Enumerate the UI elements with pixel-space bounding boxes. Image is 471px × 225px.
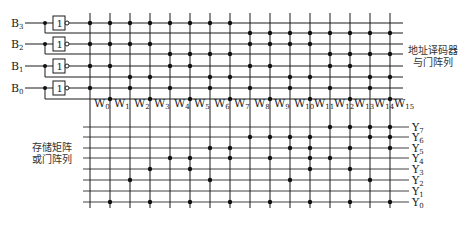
and-connection-dot [168, 64, 172, 68]
or-connection-dot [288, 146, 292, 150]
input-label-b1: B1 [11, 60, 24, 74]
and-connection-dot [368, 75, 372, 79]
decoder-caption: 地址译码器 与门阵列 [408, 45, 458, 69]
and-connection-dot [248, 31, 252, 35]
and-connection-dot [228, 52, 232, 56]
and-connection-dot [328, 86, 332, 90]
memory-caption: 存储矩阵 或门阵列 [32, 142, 72, 166]
or-connection-dot [308, 200, 312, 204]
and-connection-dot [148, 21, 152, 25]
or-connection-dot [168, 156, 172, 160]
and-connection-dot [368, 31, 372, 35]
decoder-caption-line2: 与门阵列 [408, 57, 458, 69]
and-connection-dot [328, 64, 332, 68]
and-connection-dot [228, 21, 232, 25]
or-connection-dot [288, 135, 292, 139]
or-connection-dot [308, 167, 312, 171]
or-connection-dot [288, 178, 292, 182]
junction-dot [43, 21, 47, 25]
or-connection-dot [128, 178, 132, 182]
and-connection-dot [368, 86, 372, 90]
or-connection-dot [108, 200, 112, 204]
or-connection-dot [388, 200, 392, 204]
junction-dot [43, 42, 47, 46]
and-connection-dot [128, 86, 132, 90]
and-connection-dot [288, 75, 292, 79]
and-connection-dot [88, 86, 92, 90]
memory-caption-line1: 存储矩阵 [32, 142, 72, 154]
or-connection-dot [228, 156, 232, 160]
and-connection-dot [88, 64, 92, 68]
and-connection-dot [348, 64, 352, 68]
and-connection-dot [108, 21, 112, 25]
input-label-b0: B0 [11, 82, 24, 96]
and-connection-dot [148, 42, 152, 46]
or-connection-dot [228, 200, 232, 204]
and-connection-dot [268, 42, 272, 46]
and-connection-dot [248, 64, 252, 68]
or-connection-dot [148, 200, 152, 204]
and-connection-dot [168, 21, 172, 25]
and-connection-dot [168, 52, 172, 56]
inverter-gates: 1111 [53, 16, 69, 95]
gate-symbol: 1 [57, 18, 63, 29]
and-connection-dot [108, 42, 112, 46]
and-connection-dot [308, 31, 312, 35]
gate-symbol: 1 [57, 39, 63, 50]
and-connection-dot [388, 97, 392, 101]
and-connection-dot [368, 52, 372, 56]
and-connection-dot [328, 31, 332, 35]
word-label-w15: W15 [394, 97, 414, 111]
inverter-bubble-icon [65, 86, 69, 90]
and-connection-dot [388, 75, 392, 79]
or-connection-dot [268, 156, 272, 160]
memory-caption-line2: 或门阵列 [32, 154, 72, 166]
inverter-bubble-icon [65, 64, 69, 68]
and-connection-dot [128, 42, 132, 46]
or-connection-dot [348, 125, 352, 129]
and-connection-dot [188, 64, 192, 68]
or-connection-dot [388, 146, 392, 150]
and-connection-dot [348, 97, 352, 101]
and-connection-dot [208, 75, 212, 79]
and-connection-dot [228, 97, 232, 101]
and-connection-dot [348, 31, 352, 35]
or-connection-dot [328, 156, 332, 160]
or-connection-dot [188, 200, 192, 204]
rom-decoder-diagram: 1111 B3B2B1B0Y7Y6Y5Y4Y3Y2Y1Y0W0W1W2W3W4W… [0, 0, 471, 225]
or-array-row-lines [83, 127, 409, 202]
signal-labels: B3B2B1B0Y7Y6Y5Y4Y3Y2Y1Y0W0W1W2W3W4W5W6W7… [11, 17, 424, 210]
and-connection-dot [188, 52, 192, 56]
input-label-b2: B2 [11, 38, 24, 52]
or-connection-dot [348, 167, 352, 171]
and-connection-dot [208, 52, 212, 56]
and-connection-dot [208, 21, 212, 25]
and-connection-dot [148, 75, 152, 79]
and-connection-dot [168, 86, 172, 90]
inverter-bubble-icon [65, 42, 69, 46]
or-connection-dot [208, 146, 212, 150]
and-connection-dot [268, 31, 272, 35]
junction-dot [43, 86, 47, 90]
or-connection-dot [248, 135, 252, 139]
or-connection-dot [348, 146, 352, 150]
junction-dot [43, 64, 47, 68]
and-connection-dot [228, 75, 232, 79]
and-connection-dot [88, 21, 92, 25]
or-connection-dot [388, 125, 392, 129]
decoder-caption-line1: 地址译码器 [408, 45, 458, 57]
and-connection-dot [288, 31, 292, 35]
and-connection-dot [288, 86, 292, 90]
or-connection-dot [268, 200, 272, 204]
and-connection-dot [208, 86, 212, 90]
and-connection-dot [328, 52, 332, 56]
or-connection-dot [188, 156, 192, 160]
or-connection-dot [368, 135, 372, 139]
and-connection-dot [248, 86, 252, 90]
and-connection-dot [268, 97, 272, 101]
and-connection-dot [308, 42, 312, 46]
or-connection-dot [308, 156, 312, 160]
and-connection-dot [308, 97, 312, 101]
and-connection-dot [88, 42, 92, 46]
and-connection-dot [128, 75, 132, 79]
